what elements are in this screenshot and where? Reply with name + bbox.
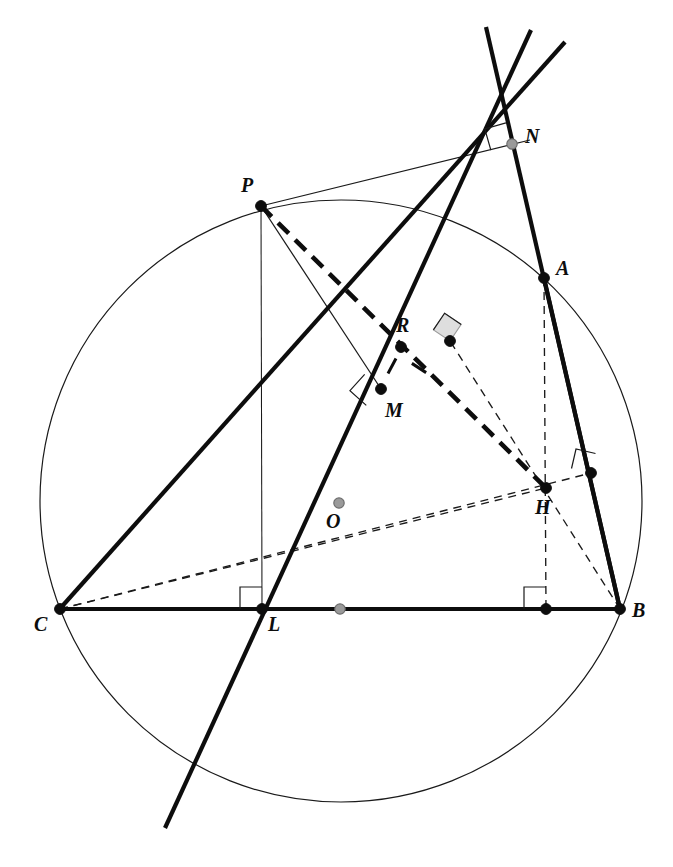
point-label-P: P xyxy=(241,175,253,195)
vertex-dot-H xyxy=(541,483,552,494)
geometry-figure: P N A R M O H C L B xyxy=(0,0,673,867)
segment-P-to-L xyxy=(261,206,262,609)
segment-P-to-N-perpendicular xyxy=(261,140,530,206)
point-label-N: N xyxy=(525,126,539,146)
vertex-dot-C xyxy=(55,604,66,615)
vertex-dot-B xyxy=(615,604,626,615)
vertex-dot-P xyxy=(256,201,267,212)
vertex-dot-A xyxy=(539,273,550,284)
tick-on-RM-upper xyxy=(388,358,396,373)
point-label-O: O xyxy=(326,511,340,531)
point-label-M: M xyxy=(385,400,403,420)
geometry-canvas xyxy=(0,0,673,867)
point-label-B: B xyxy=(632,600,645,620)
vertex-dot-R xyxy=(396,342,407,353)
segment-side-AB xyxy=(544,278,620,609)
vertex-dots-group xyxy=(55,139,626,615)
point-dot-foot-of-perpendicular-from-H-on-AC xyxy=(445,336,456,347)
point-dot-midpoint-of-CB xyxy=(335,604,345,614)
vertex-dot-M xyxy=(376,384,387,395)
point-dot-foot-of-altitude-from-A-on-CB xyxy=(541,604,552,615)
point-label-A: A xyxy=(556,258,569,278)
vertex-dot-O xyxy=(334,498,344,508)
dashed-segment-C-to-foot-on-AB xyxy=(60,473,591,609)
vertex-dot-L xyxy=(257,604,268,615)
dashed-altitude-A-to-foot-on-CB xyxy=(544,278,546,609)
point-dot-foot-of-altitude-from-C-on-AB xyxy=(586,468,597,479)
vertex-dot-N xyxy=(507,139,517,149)
point-label-L: L xyxy=(268,614,280,634)
point-label-C: C xyxy=(34,614,47,634)
point-label-H: H xyxy=(535,497,551,517)
point-label-R: R xyxy=(396,315,409,335)
